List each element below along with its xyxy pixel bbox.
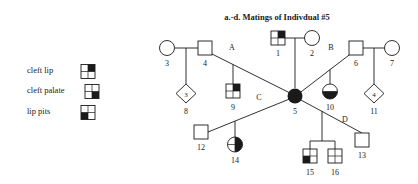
individual-id-label: 10: [326, 103, 334, 112]
figure-title: a.-d. Matings of Indivdual #5: [224, 12, 329, 22]
individual-6[interactable]: 6: [349, 41, 363, 68]
symbol-circle: [385, 41, 400, 56]
individual-count: 3: [184, 91, 188, 99]
legend-item-cleft-palate: cleft palate: [27, 85, 99, 99]
legend-item-lip-pits: lip pits: [27, 106, 95, 120]
individual-9[interactable]: 9: [226, 84, 240, 112]
individual-5[interactable]: 5: [288, 89, 303, 117]
individual-8[interactable]: 3 8: [176, 84, 196, 116]
legend-item-label: cleft lip: [27, 65, 53, 75]
individual-id-label: 2: [310, 49, 314, 58]
individual-10[interactable]: 10: [323, 84, 338, 112]
symbol-circle: [305, 31, 320, 46]
individual-id-label: 12: [197, 143, 205, 152]
legend: cleft lip cleft palate: [27, 65, 99, 120]
individual-id-label: 15: [306, 168, 314, 177]
individual-id-label: 5: [293, 107, 297, 116]
individual-id-label: 9: [231, 103, 235, 112]
individual-id-label: 13: [358, 151, 366, 160]
individual-13[interactable]: 13: [355, 133, 369, 160]
individual-1[interactable]: 1: [271, 31, 285, 58]
individual-7[interactable]: 7: [385, 41, 400, 69]
mating-label-b: B: [328, 43, 333, 52]
quad-square-upper-right-filled-icon: [81, 65, 95, 79]
quad-square-lower-right-filled-icon: [85, 85, 99, 99]
pedigree-diagram: a.-d. Matings of Indivdual #5 cleft lip …: [0, 0, 418, 184]
quadrant-upper-right-fill: [233, 84, 240, 91]
pedigree-figure: a.-d. Matings of Indivdual #5 cleft lip …: [0, 0, 418, 184]
individual-id-label: 6: [354, 59, 358, 68]
mating-label-c: C: [256, 93, 261, 102]
quadrant-upper-right-fill: [278, 31, 285, 38]
quadrant-lower-left-fill: [303, 156, 310, 163]
individual-16[interactable]: 16: [328, 149, 342, 177]
legend-item-label: lip pits: [27, 106, 50, 116]
legend-item-label: cleft palate: [27, 85, 65, 95]
individual-id-label: 4: [203, 59, 207, 68]
individual-id-label: 16: [331, 168, 339, 177]
individual-count: 4: [372, 91, 376, 99]
individual-12[interactable]: 12: [194, 125, 208, 152]
individual-15[interactable]: 15: [303, 149, 317, 177]
mating-label-a: A: [229, 43, 235, 52]
symbol-square: [355, 133, 369, 147]
individual-id-label: 11: [370, 107, 378, 116]
symbol-square: [194, 125, 208, 139]
individual-id-label: 1: [276, 49, 280, 58]
individual-2[interactable]: 2: [305, 31, 320, 59]
individual-4[interactable]: 4: [198, 41, 212, 68]
individual-id-label: 3: [165, 59, 169, 68]
individual-11[interactable]: 4 11: [364, 84, 384, 116]
symbol-circle: [160, 41, 175, 56]
individual-3[interactable]: 3: [160, 41, 175, 69]
half-lower-fill: [323, 92, 338, 100]
legend-item-cleft-lip: cleft lip: [27, 65, 95, 79]
symbol-square: [349, 41, 363, 55]
individual-14[interactable]: 14: [228, 137, 243, 165]
individual-id-label: 8: [184, 107, 188, 116]
symbol-circle-filled: [288, 89, 303, 104]
individual-id-label: 7: [390, 59, 394, 68]
quad-square-lower-left-filled-icon: [81, 106, 95, 120]
mating-label-d: D: [342, 115, 348, 124]
symbol-square: [198, 41, 212, 55]
individual-id-label: 14: [231, 156, 239, 165]
